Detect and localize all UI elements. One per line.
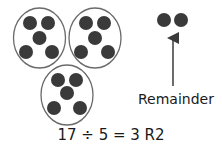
division-diagram: Remainder 17 ÷ 5 = 3 R2 [0,0,222,146]
dot [74,45,88,59]
dot [60,86,74,100]
dot [45,45,59,59]
group-3 [41,65,93,125]
dot [51,73,65,87]
dot [47,101,61,115]
remainder-dots [157,13,188,27]
dot [23,16,37,30]
dot [41,16,55,30]
dot [73,101,87,115]
dot [157,13,171,27]
dot [33,31,47,45]
equation: 17 ÷ 5 = 3 R2 [57,126,164,144]
dot [97,16,111,30]
dot [101,45,115,59]
dot [69,73,83,87]
dot [79,16,93,30]
dot [19,45,33,59]
group-2 [69,8,121,68]
remainder-label: Remainder [138,91,214,107]
dot [174,13,188,27]
dot [88,31,102,45]
group-1 [14,8,66,68]
